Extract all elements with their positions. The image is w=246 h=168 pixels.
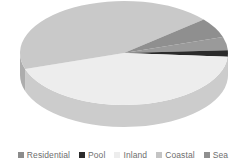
- pie-plot-area: [0, 0, 246, 140]
- legend-item-label: Sea: [213, 150, 228, 160]
- legend-item-sea[interactable]: Sea: [204, 150, 228, 160]
- square-swatch-icon: [156, 152, 162, 158]
- square-swatch-icon: [18, 152, 24, 158]
- chart-legend: ResidentialPoolInlandCoastalSea: [0, 145, 246, 165]
- square-swatch-icon: [114, 152, 120, 158]
- pie-chart: ResidentialPoolInlandCoastalSea: [0, 0, 246, 168]
- legend-item-label: Residential: [27, 150, 70, 160]
- square-swatch-icon: [79, 152, 85, 158]
- legend-item-label: Coastal: [165, 150, 195, 160]
- legend-item-pool[interactable]: Pool: [79, 150, 105, 160]
- legend-item-inland[interactable]: Inland: [114, 150, 147, 160]
- pie-svg: [0, 0, 246, 140]
- legend-item-coastal[interactable]: Coastal: [156, 150, 195, 160]
- pie-slices-group: [20, 1, 228, 127]
- square-swatch-icon: [204, 152, 210, 158]
- legend-item-label: Pool: [88, 150, 105, 160]
- legend-item-residential[interactable]: Residential: [18, 150, 70, 160]
- legend-item-label: Inland: [123, 150, 147, 160]
